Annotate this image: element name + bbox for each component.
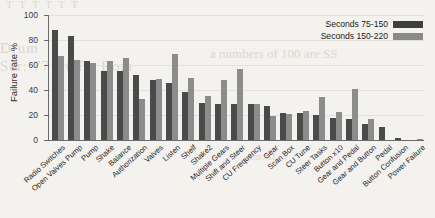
legend-item-seconds-150-220: Seconds 150-220 [321,31,423,41]
bar-group [215,15,227,140]
chart-figure: T T T T T T Drum Ser: 77 fit Tir Rom a n… [0,0,435,218]
bar [58,56,64,140]
bar-group [133,15,145,140]
legend-item-seconds-75-150: Seconds 75-150 [325,19,423,29]
bar-group [117,15,129,140]
y-axis-title: Failure rate % [6,18,20,126]
bar [303,111,309,140]
bar-group [231,15,243,140]
y-axis-tick-label: 20 [29,110,38,120]
x-axis-label: Listen [161,143,182,163]
bar [74,60,80,140]
y-axis-tick: 80 [44,40,48,41]
y-axis-tick: 60 [44,65,48,66]
bar [395,138,401,141]
y-axis-tick: 40 [44,90,48,91]
y-axis-tick-label: 60 [29,60,38,70]
legend-label: Seconds 75-150 [325,19,388,29]
background-bleed-text-1: T T T T T T [6,0,80,10]
bar [417,139,423,140]
bar [237,69,243,140]
bar-group [280,15,292,140]
y-axis-tick: 20 [44,115,48,116]
bar [123,58,129,140]
bar [205,96,211,140]
bar [336,112,342,140]
y-axis-tick: 100 [44,15,48,16]
bar [172,54,178,140]
chart-legend: Seconds 75-150 Seconds 150-220 [321,19,423,41]
bar-group [248,15,260,140]
bar-group [84,15,96,140]
bar [188,78,194,140]
bar [90,63,96,141]
bar [107,61,113,140]
x-axis-labels: Radio SwitchesOpen Valves PumpPumpShakeB… [48,141,435,218]
legend-swatch-icon [393,33,423,40]
bar-group [150,15,162,140]
legend-swatch-icon [393,21,423,28]
bar-group [52,15,64,140]
bar-group [68,15,80,140]
y-axis-tick-label: 100 [24,10,38,20]
bar [368,119,374,140]
bar [352,89,358,140]
bar-group [264,15,276,140]
y-axis-tick-label: 80 [29,35,38,45]
bar [270,116,276,140]
y-axis-tick-label: 40 [29,85,38,95]
bar [221,80,227,140]
bar-group [297,15,309,140]
legend-label: Seconds 150-220 [321,31,388,41]
bar-group [166,15,178,140]
bar-group [101,15,113,140]
bar [319,97,325,140]
bar [139,99,145,140]
y-axis-tick-label: 0 [33,135,38,145]
bar [254,104,260,140]
bar [379,127,385,140]
bar-group [182,15,194,140]
bar [286,114,292,140]
bar [156,79,162,140]
bar-group [199,15,211,140]
